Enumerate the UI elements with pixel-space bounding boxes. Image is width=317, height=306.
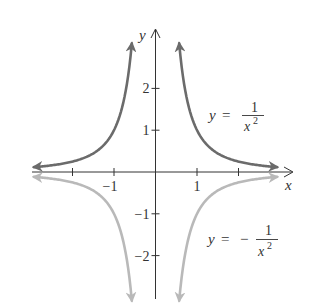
x-tick-label: −1: [103, 179, 118, 194]
label-denominator: x: [257, 244, 265, 259]
x-tick-label: 1: [194, 179, 201, 194]
label-lhs: y: [206, 231, 215, 247]
label-denominator: x: [243, 119, 251, 134]
label-sign: −: [240, 231, 248, 247]
label-numerator: 1: [265, 223, 272, 238]
label-exponent: 2: [253, 115, 258, 126]
label-eq: =: [221, 231, 229, 247]
negative-curve-branch-left: [34, 177, 132, 301]
y-tick-label: 1: [143, 123, 150, 138]
y-axis-label: y: [137, 27, 146, 43]
legend-label-negative: y = − 1 x 2: [206, 223, 278, 259]
y-tick-label: −2: [135, 249, 150, 264]
label-lhs: y: [207, 107, 216, 123]
label-eq: =: [222, 107, 230, 123]
y-axis: 21−1−2 y: [135, 27, 160, 299]
label-exponent: 2: [267, 240, 272, 251]
positive-curve-branch-left: [34, 43, 132, 167]
legend-label-positive: y = 1 x 2: [207, 100, 264, 134]
y-tick-label: −1: [135, 207, 150, 222]
x-axis-label: x: [284, 177, 292, 193]
y-tick-label: 2: [143, 81, 150, 96]
label-numerator: 1: [251, 100, 258, 115]
positive-curve-branch-right: [179, 43, 277, 167]
hyperbola-graph: −11 x 21−1−2 y y = 1 x 2 y = − 1 x 2: [0, 0, 317, 306]
